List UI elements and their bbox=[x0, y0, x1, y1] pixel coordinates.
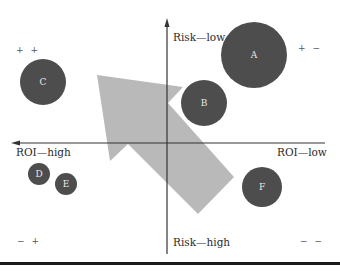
bubble-d: D bbox=[28, 163, 50, 185]
bubble-c-label: C bbox=[40, 77, 47, 87]
bubble-a: A bbox=[221, 22, 287, 88]
bubble-e-label: E bbox=[63, 179, 70, 189]
quadrant-marker-top-right: + − bbox=[298, 44, 322, 53]
bubble-e: E bbox=[55, 173, 77, 195]
bubble-f-label: F bbox=[259, 182, 265, 192]
bubble-b-label: B bbox=[201, 98, 208, 108]
bubble-f: F bbox=[242, 167, 282, 207]
horizontal-axis-arrowhead-icon bbox=[11, 141, 20, 146]
quadrant-marker-top-left: + + bbox=[16, 46, 40, 55]
quadrant-marker-bottom-left: − + bbox=[17, 237, 41, 246]
bubble-c: C bbox=[20, 59, 66, 105]
bottom-rule-divider bbox=[0, 262, 340, 265]
axis-label-roi-low: ROI—low bbox=[277, 147, 327, 158]
axis-label-risk-high: Risk—high bbox=[173, 237, 230, 248]
axis-label-roi-high: ROI—high bbox=[16, 147, 71, 158]
bubble-a-label: A bbox=[251, 50, 258, 60]
vertical-axis-arrowhead-icon bbox=[165, 18, 170, 27]
quadrant-marker-bottom-right: − − bbox=[300, 237, 324, 246]
axis-label-risk-low: Risk—low bbox=[173, 32, 225, 43]
diagram-graphics bbox=[0, 0, 340, 271]
quadrant-diagram: Risk—low Risk—high ROI—high ROI—low + + … bbox=[0, 0, 340, 271]
bubble-b: B bbox=[181, 80, 227, 126]
bubble-d-label: D bbox=[35, 169, 42, 179]
